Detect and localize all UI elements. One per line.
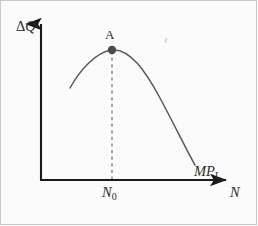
- figure-container: ΔQ N A N0 MPL: [0, 0, 258, 226]
- delta-symbol: Δ: [16, 18, 25, 34]
- curve-label-mpl: MPL: [194, 163, 221, 181]
- n0-base: N: [102, 184, 112, 200]
- n0-subscript: 0: [112, 191, 117, 202]
- point-a-label: A: [105, 27, 114, 43]
- y-axis-variable: Q: [25, 18, 35, 34]
- mpl-subscript: L: [215, 170, 221, 181]
- plot-canvas: [0, 0, 258, 226]
- x-tick-label-n0: N0: [102, 184, 117, 202]
- marginal-product-curve: [70, 50, 195, 165]
- point-a-marker: [108, 46, 116, 54]
- y-axis-label: ΔQ: [16, 18, 36, 35]
- mpl-base: MP: [194, 163, 215, 179]
- x-axis-label: N: [230, 184, 240, 201]
